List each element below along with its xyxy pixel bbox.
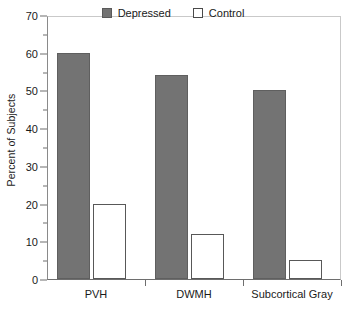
bar-chart: Percent of Subjects 010203040506070 Depr…	[0, 0, 346, 318]
bar-subcortical-gray-control	[289, 260, 322, 279]
y-tick-major	[40, 129, 47, 130]
y-tick-major	[40, 16, 47, 17]
bar-subcortical-gray-depressed	[253, 90, 286, 279]
y-tick-major	[40, 242, 47, 243]
y-tick-label: 30	[26, 161, 38, 173]
x-tick	[145, 280, 146, 286]
y-tick-label: 20	[26, 199, 38, 211]
x-axis-ticks	[47, 280, 341, 286]
y-tick-label: 70	[26, 10, 38, 22]
y-axis-ticks	[40, 16, 47, 280]
bars-layer	[48, 17, 340, 279]
x-tick	[341, 280, 342, 286]
x-tick	[243, 280, 244, 286]
y-tick-major	[40, 204, 47, 205]
bar-dwmh-depressed	[155, 75, 188, 279]
x-axis-labels: PVHDWMHSubcortical Gray	[47, 288, 341, 308]
y-tick-label: 60	[26, 48, 38, 60]
x-axis-label: DWMH	[176, 288, 211, 300]
plot-area	[47, 16, 341, 280]
y-tick-label: 40	[26, 123, 38, 135]
y-tick-label: 50	[26, 85, 38, 97]
bar-dwmh-control	[191, 234, 224, 279]
y-axis-tick-labels: 010203040506070	[18, 16, 38, 280]
y-axis-title-text: Percent of Subjects	[5, 94, 17, 187]
y-tick-major	[40, 53, 47, 54]
y-tick-label: 0	[32, 274, 38, 286]
y-tick-major	[40, 280, 47, 281]
bar-pvh-depressed	[57, 53, 90, 279]
bar-pvh-control	[93, 204, 126, 279]
y-tick-major	[40, 91, 47, 92]
x-axis-label: PVH	[85, 288, 108, 300]
x-axis-label: Subcortical Gray	[251, 288, 332, 300]
y-tick-major	[40, 166, 47, 167]
y-tick-label: 10	[26, 236, 38, 248]
